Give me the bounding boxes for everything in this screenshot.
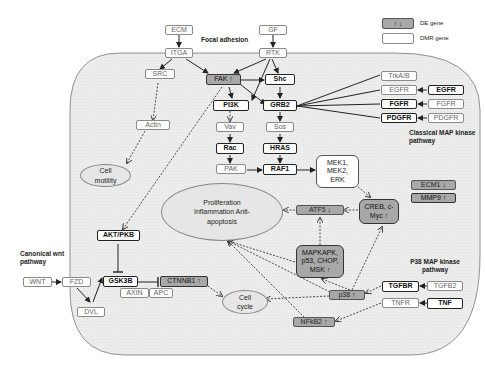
node-atf5[interactable]: ATF5 ↓: [296, 205, 344, 215]
node-wnt[interactable]: WNT: [23, 277, 52, 287]
node-sos[interactable]: Sos: [266, 122, 294, 132]
node-mmp9[interactable]: MMP9 ↑: [411, 193, 456, 203]
classical-map-label: Classical MAP kinase pathway: [409, 129, 481, 145]
node-src[interactable]: SRC: [145, 69, 175, 79]
node-raf1[interactable]: RAF1: [263, 164, 297, 175]
node-akt-pkb[interactable]: AKT/PKB: [97, 230, 140, 241]
legend-dmr-label: DMR gene: [420, 35, 449, 41]
node-trkab[interactable]: TrkA/B: [381, 71, 417, 81]
oval-cell-cycle: Cell cycle: [222, 290, 268, 314]
node-tgfbr[interactable]: TGFBR: [382, 281, 419, 292]
node-fak[interactable]: FAK ↑: [206, 74, 241, 85]
node-hras[interactable]: HRAS: [263, 143, 297, 154]
node-mek-erk[interactable]: MEK1, MEK2, ERK: [316, 155, 359, 188]
node-egfr-internal[interactable]: EGFR: [381, 85, 417, 95]
node-nfkb2[interactable]: NFkB2 ↑: [293, 317, 335, 327]
node-creb-myc[interactable]: CREB, c-Myc ↑: [359, 199, 399, 224]
node-pdgfr-internal[interactable]: PDGFR: [381, 113, 417, 123]
oval-cell-motility: Cell motility: [80, 164, 131, 187]
node-itga[interactable]: ITGA: [165, 48, 193, 58]
node-egfr-external[interactable]: EGFR: [428, 85, 464, 95]
node-tnfr[interactable]: TNFR: [382, 298, 419, 308]
proliferation-text: Proliferation Inflammation Anti-apoptosi…: [187, 198, 257, 226]
node-actin[interactable]: Actin: [136, 120, 170, 130]
node-tnf[interactable]: TNF: [427, 298, 463, 309]
focal-adhesion-label: Focal adhesion: [201, 36, 248, 44]
node-ecm1[interactable]: ECM1 ↓: [411, 180, 456, 190]
node-tgfb2[interactable]: TGFB2: [427, 281, 463, 291]
node-rtk[interactable]: RTK: [259, 48, 287, 58]
legend-de-symbol: ↑ ↓: [394, 20, 402, 27]
node-pi3k[interactable]: PI3K: [213, 100, 249, 111]
node-fzd[interactable]: FZD: [62, 277, 91, 287]
node-mapkapk[interactable]: MAPKAPK, p53, CHOP, MSK ↑: [296, 245, 344, 278]
node-grb2[interactable]: GRB2: [263, 100, 297, 111]
node-ecm[interactable]: ECM: [165, 25, 193, 35]
node-p38[interactable]: p38 ↑: [329, 290, 365, 300]
oval-proliferation: Proliferation Inflammation Anti-apoptosi…: [161, 183, 283, 241]
legend-de-label: DE gene: [420, 20, 443, 26]
node-pdgfr-external[interactable]: PDGFR: [428, 113, 464, 123]
node-rac[interactable]: Rac: [216, 143, 244, 154]
legend-de-swatch: ↑ ↓: [382, 18, 414, 29]
node-vav[interactable]: Vav: [216, 122, 244, 132]
node-apc[interactable]: APC: [149, 288, 173, 298]
cell-cycle-text: Cell cycle: [232, 293, 258, 312]
node-pak[interactable]: PAK: [216, 164, 246, 174]
node-axin[interactable]: AXIN: [120, 288, 149, 298]
node-fgfr-external[interactable]: FGFR: [428, 99, 464, 109]
canonical-wnt-label: Canonical wnt pathway: [20, 250, 72, 266]
node-gsk3b[interactable]: GSK3B: [103, 276, 138, 287]
cell-motility-text: Cell motility: [91, 166, 121, 185]
p38-map-label: P38 MAP kinase pathway: [405, 258, 465, 274]
legend-dmr-swatch: [382, 33, 414, 44]
node-fgfr-internal[interactable]: FGFR: [381, 99, 417, 109]
node-dvl[interactable]: DVL: [77, 307, 105, 317]
node-shc[interactable]: Shc: [265, 74, 295, 85]
node-ctnnb1[interactable]: CTNNB1 ↑: [160, 276, 208, 287]
node-gf[interactable]: GF: [259, 25, 287, 35]
pathway-diagram: ↑ ↓ DE gene DMR gene Focal adhesion Clas…: [0, 0, 485, 370]
